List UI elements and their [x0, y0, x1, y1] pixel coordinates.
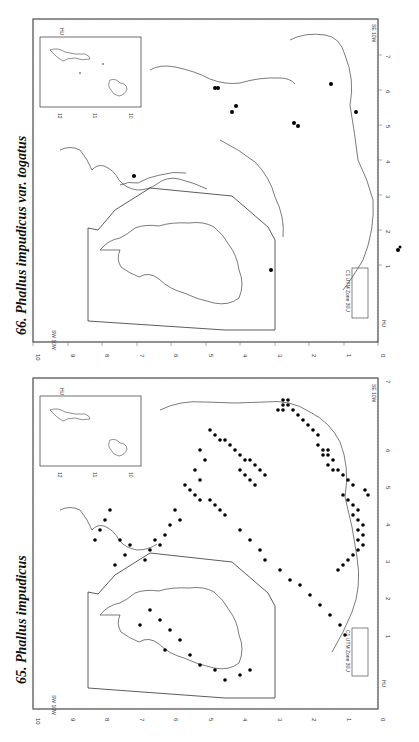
- svg-text:5: 5: [385, 486, 391, 490]
- svg-text:7: 7: [139, 718, 145, 722]
- svg-text:6: 6: [385, 90, 391, 94]
- svg-text:4: 4: [242, 354, 248, 358]
- svg-text:10: 10: [128, 113, 134, 119]
- svg-text:3: 3: [385, 560, 391, 564]
- svg-text:10: 10: [35, 718, 41, 725]
- svg-text:1: 1: [385, 265, 391, 269]
- svg-text:HU: HU: [381, 320, 387, 328]
- svg-text:5: 5: [208, 718, 214, 722]
- distribution-map-66: 10 9 8 7 6 5 4 3 2 1 0 1 2 3 4 5 6 7 12 …: [0, 0, 419, 370]
- svg-text:1: 1: [346, 718, 352, 722]
- svg-text:2: 2: [385, 597, 391, 601]
- svg-text:4: 4: [385, 523, 391, 527]
- svg-text:12: 12: [57, 472, 63, 478]
- svg-text:3: 3: [385, 195, 391, 199]
- svg-text:SE 10W: SE 10W: [371, 24, 377, 43]
- svg-text:8: 8: [104, 718, 110, 722]
- svg-text:5: 5: [385, 125, 391, 129]
- svg-text:6: 6: [385, 449, 391, 453]
- svg-text:0: 0: [380, 718, 386, 722]
- svg-text:2: 2: [311, 354, 317, 358]
- svg-text:5: 5: [208, 354, 214, 358]
- svg-text:10: 10: [35, 354, 41, 361]
- svg-text:1: 1: [385, 635, 391, 639]
- svg-text:C1 UTM Zone 30U: C1 UTM Zone 30U: [345, 630, 351, 672]
- svg-text:SW 10W: SW 10W: [51, 695, 57, 715]
- svg-text:6: 6: [173, 718, 179, 722]
- svg-text:HU: HU: [59, 388, 65, 396]
- svg-text:HU: HU: [59, 28, 65, 36]
- svg-text:10: 10: [128, 472, 134, 478]
- svg-text:HU: HU: [381, 680, 387, 688]
- svg-text:SE 10W: SE 10W: [371, 384, 377, 403]
- svg-text:4: 4: [242, 718, 248, 722]
- svg-text:3: 3: [277, 354, 283, 358]
- svg-text:1: 1: [346, 354, 352, 358]
- map-65-graphic: 1 2 3 4 5 6 7 10 9 8 7 6 5 4 3 2 1 0 12 …: [0, 370, 419, 742]
- svg-text:8: 8: [104, 354, 110, 358]
- map-66-graphic: 10 9 8 7 6 5 4 3 2 1 0 1 2 3 4 5 6 7 12 …: [0, 0, 419, 370]
- svg-text:2: 2: [385, 230, 391, 234]
- svg-text:7: 7: [139, 354, 145, 358]
- svg-text:6: 6: [173, 354, 179, 358]
- distribution-map-65: 1 2 3 4 5 6 7 10 9 8 7 6 5 4 3 2 1 0 12 …: [0, 370, 419, 742]
- svg-text:2: 2: [311, 718, 317, 722]
- svg-text:7: 7: [385, 380, 391, 384]
- svg-text:11: 11: [92, 472, 98, 477]
- svg-text:9: 9: [70, 718, 76, 722]
- svg-text:4: 4: [385, 160, 391, 164]
- svg-text:9: 9: [70, 354, 76, 358]
- svg-text:C1 UTM Zone 30U: C1 UTM Zone 30U: [345, 270, 351, 312]
- record-dots-65: [93, 398, 370, 682]
- svg-text:12: 12: [57, 113, 63, 119]
- svg-text:7: 7: [385, 55, 391, 59]
- svg-text:3: 3: [277, 718, 283, 722]
- svg-text:0: 0: [380, 354, 386, 358]
- svg-text:SW 10W: SW 10W: [51, 330, 57, 350]
- svg-text:11: 11: [92, 113, 98, 118]
